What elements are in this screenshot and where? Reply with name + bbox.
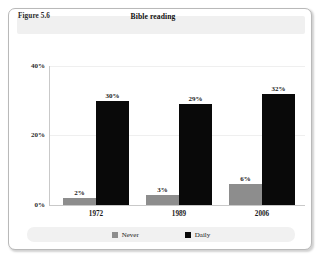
legend-item-daily[interactable]: Daily	[185, 231, 211, 239]
bar-rect	[262, 94, 295, 205]
legend-label-daily: Daily	[195, 231, 211, 239]
square-icon	[112, 232, 118, 238]
chart-plot-area: 40% 20% 0% 2% 30% 1972 3% 29%	[9, 9, 313, 251]
bar-group-1972: 2% 30% 1972	[57, 66, 135, 205]
bar-rect	[96, 101, 129, 205]
legend-item-never[interactable]: Never	[112, 231, 139, 239]
bar-value-label: 32%	[262, 85, 295, 93]
bar-group-1989: 3% 29% 1989	[140, 66, 218, 205]
x-tick-label-2006: 2006	[223, 210, 301, 218]
bar-rect	[179, 104, 212, 205]
bar-value-label: 29%	[179, 95, 212, 103]
bar-never-1989[interactable]: 3%	[146, 66, 179, 205]
x-tick-label-1972: 1972	[57, 210, 135, 218]
bar-daily-1972[interactable]: 30%	[96, 66, 129, 205]
bar-value-label: 2%	[63, 189, 96, 197]
bar-rect	[146, 195, 179, 205]
y-axis-line	[49, 66, 50, 206]
bar-value-label: 3%	[146, 186, 179, 194]
bar-group-2006: 6% 32% 2006	[223, 66, 301, 205]
y-tick-label-0: 0%	[11, 201, 45, 209]
bar-value-label: 30%	[96, 92, 129, 100]
bar-never-1972[interactable]: 2%	[63, 66, 96, 205]
bar-rect	[229, 184, 262, 205]
legend-label-never: Never	[122, 231, 139, 239]
x-tick-label-1989: 1989	[140, 210, 218, 218]
square-icon	[185, 232, 191, 238]
bar-daily-2006[interactable]: 32%	[262, 66, 295, 205]
bar-rect	[63, 198, 96, 205]
y-tick-label-20: 20%	[11, 131, 45, 139]
bar-value-label: 6%	[229, 175, 262, 183]
figure-card: Figure 5.6 Bible reading 40% 20% 0% 2% 3…	[8, 8, 312, 250]
bar-never-2006[interactable]: 6%	[229, 66, 262, 205]
bar-daily-1989[interactable]: 29%	[179, 66, 212, 205]
chart-legend: Never Daily	[27, 227, 295, 242]
y-tick-label-40: 40%	[11, 62, 45, 70]
x-axis-line	[49, 205, 305, 206]
